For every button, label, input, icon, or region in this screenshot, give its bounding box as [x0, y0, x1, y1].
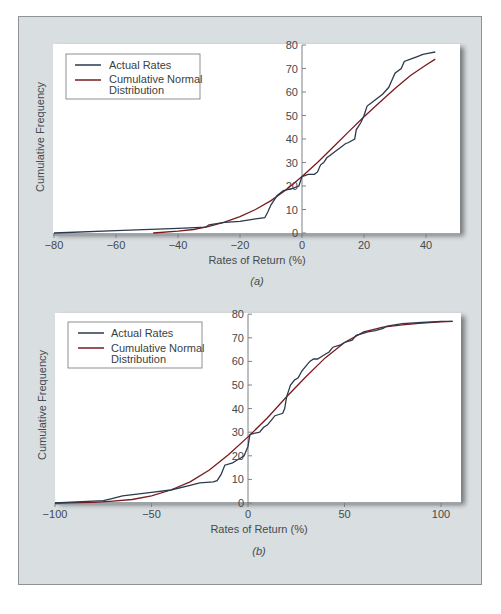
- y-tick-label: 40: [232, 403, 244, 415]
- chart-a-xlabel: Rates of Return (%): [208, 254, 305, 266]
- y-tick-label: 70: [286, 63, 298, 75]
- legend-normal-label-2: Distribution: [109, 84, 164, 96]
- chart-a-ylabel: Cumulative Frequency: [34, 81, 46, 192]
- legend-actual-label: Actual Rates: [109, 59, 172, 71]
- y-tick-label: 80: [232, 308, 244, 320]
- y-tick-label: 50: [232, 379, 244, 391]
- y-tick-label: 40: [286, 133, 298, 145]
- chart-a-legend: Actual Rates Cumulative Normal Distribut…: [66, 54, 203, 99]
- x-tick-label: 20: [358, 239, 370, 251]
- figure-svg: 01020304050607080−80−60−40−2002040 Actua…: [0, 0, 501, 614]
- x-tick-label: 100: [432, 508, 450, 520]
- chart-b-xlabel: Rates of Return (%): [210, 523, 307, 535]
- y-tick-label: 30: [232, 426, 244, 438]
- chart-a-caption: (a): [250, 275, 264, 287]
- chart-b: 01020304050607080−100−50050100 Actual Ra…: [36, 308, 461, 557]
- x-tick-label: −20: [231, 239, 250, 251]
- legend-actual-label: Actual Rates: [111, 327, 174, 339]
- x-tick-label: −60: [107, 239, 126, 251]
- y-tick-label: 10: [286, 204, 298, 216]
- y-tick-label: 80: [286, 39, 298, 51]
- x-tick-label: 0: [299, 239, 305, 251]
- chart-b-ylabel: Cumulative Frequency: [36, 349, 48, 460]
- y-tick-label: 60: [232, 355, 244, 367]
- x-tick-label: −100: [43, 508, 68, 520]
- x-tick-label: 50: [338, 508, 350, 520]
- y-tick-label: 10: [232, 473, 244, 485]
- x-tick-label: −50: [142, 508, 161, 520]
- x-tick-label: −80: [45, 239, 64, 251]
- x-tick-label: 0: [245, 508, 251, 520]
- x-tick-label: −40: [169, 239, 188, 251]
- y-tick-label: 0: [292, 227, 298, 239]
- legend-normal-label-2: Distribution: [111, 353, 166, 365]
- chart-a: 01020304050607080−80−60−40−2002040 Actua…: [34, 39, 460, 287]
- y-tick-label: 30: [286, 157, 298, 169]
- y-tick-label: 50: [286, 110, 298, 122]
- y-tick-label: 0: [238, 497, 244, 509]
- y-tick-label: 60: [286, 86, 298, 98]
- y-tick-label: 70: [232, 332, 244, 344]
- chart-b-legend: Actual Rates Cumulative Normal Distribut…: [68, 322, 205, 368]
- chart-b-caption: (b): [252, 545, 266, 557]
- x-tick-label: 40: [420, 239, 432, 251]
